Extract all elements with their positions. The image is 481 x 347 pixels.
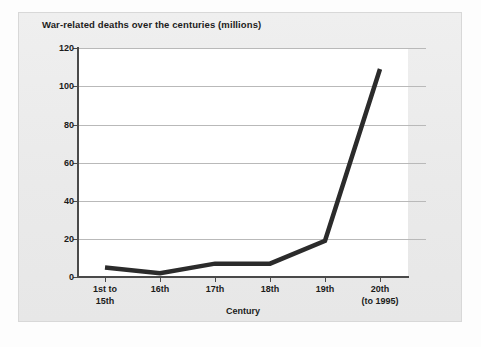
data-line-war-deaths	[105, 69, 380, 273]
chart-page: War-related deaths over the centuries (m…	[0, 0, 481, 347]
series-layer	[0, 0, 481, 347]
